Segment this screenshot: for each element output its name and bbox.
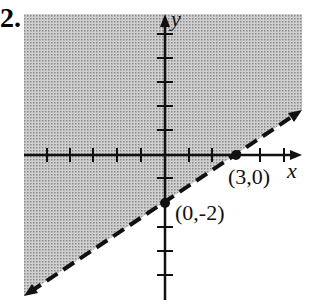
inequality-graph	[0, 0, 316, 307]
y-axis-label: y	[171, 6, 181, 32]
point-0-neg2	[160, 198, 170, 208]
x-axis-label: x	[287, 158, 297, 184]
point-label-3-0: (3,0)	[228, 164, 270, 190]
point-label-0-neg2: (0,-2)	[175, 200, 224, 226]
point-3-0	[231, 150, 241, 160]
